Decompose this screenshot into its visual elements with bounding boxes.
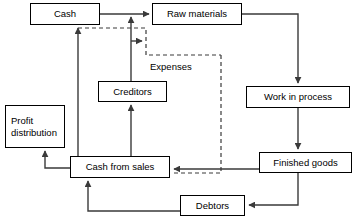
node-cash-label: Cash [54,8,76,20]
edge-expenses-to-cash-from-sales [172,55,221,173]
edge-raw-materials-to-work-in-process [242,14,298,83]
node-debtors[interactable]: Debtors [180,195,245,216]
node-creditors[interactable]: Creditors [98,81,167,102]
label-expenses: Expenses [148,61,194,72]
edge-cash-to-expenses [78,28,221,55]
node-debtors-label: Debtors [196,200,229,212]
node-raw-materials-label: Raw materials [167,8,227,20]
edge-debtors-to-cash-from-sales [88,181,180,211]
node-work-in-process-label: Work in process [264,91,332,103]
node-profit-distribution[interactable]: Profit distribution [5,105,65,148]
node-profit-distribution-label: Profit distribution [11,115,64,139]
edge-finished-goods-to-debtors [249,173,298,205]
node-cash-from-sales-label: Cash from sales [86,161,155,173]
node-finished-goods-label: Finished goods [273,157,337,169]
diagram-canvas: Cash Raw materials Creditors Work in pro… [0,0,356,219]
node-creditors-label: Creditors [113,86,152,98]
node-cash[interactable]: Cash [30,3,100,25]
edge-cash-from-sales-to-profit-distribution [45,151,70,168]
node-cash-from-sales[interactable]: Cash from sales [70,156,170,178]
node-work-in-process[interactable]: Work in process [246,86,350,108]
node-raw-materials[interactable]: Raw materials [152,3,242,25]
node-finished-goods[interactable]: Finished goods [259,152,352,173]
